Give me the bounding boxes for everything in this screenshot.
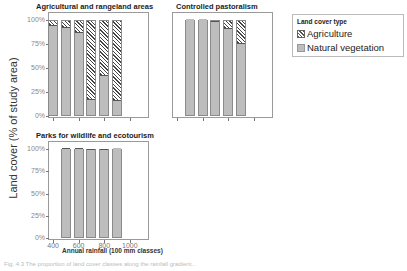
x-tick bbox=[104, 118, 105, 121]
x-axis-label: Annual rainfall (100 mm classes) bbox=[62, 247, 163, 254]
stacked-bar bbox=[112, 20, 122, 116]
stacked-bar bbox=[210, 20, 220, 116]
bar-segment-natural-vegetation bbox=[87, 99, 95, 115]
x-tick bbox=[79, 118, 80, 121]
y-tick-label: 0% bbox=[19, 112, 45, 119]
y-tick bbox=[46, 238, 49, 239]
bar-segment-natural-vegetation bbox=[100, 149, 108, 237]
stacked-bar bbox=[236, 20, 246, 116]
legend-title: Land cover type bbox=[297, 18, 347, 25]
y-tick-label: 25% bbox=[19, 212, 45, 219]
bar-segment-natural-vegetation bbox=[75, 32, 83, 115]
y-axis-label: Land cover (% of study area) bbox=[7, 53, 19, 203]
stacked-bar bbox=[112, 149, 122, 238]
y-tick-label: 100% bbox=[19, 16, 45, 23]
bar-segment-natural-vegetation bbox=[75, 148, 83, 237]
bar-segment-natural-vegetation bbox=[211, 21, 219, 115]
bar-segment-natural-vegetation bbox=[224, 28, 232, 115]
y-tick bbox=[46, 116, 49, 117]
stacked-bar bbox=[61, 149, 71, 238]
stacked-bar bbox=[48, 20, 58, 116]
stacked-bar bbox=[86, 20, 96, 116]
bar-segment-agriculture bbox=[87, 21, 95, 102]
bar-segment-natural-vegetation bbox=[49, 25, 57, 115]
figure-caption: Fig. 4.3 The proportion of land cover cl… bbox=[4, 261, 196, 267]
bar-segment-agriculture bbox=[113, 21, 121, 103]
hatch-swatch-icon bbox=[297, 30, 305, 38]
y-tick-label: 50% bbox=[19, 64, 45, 71]
x-tick bbox=[53, 118, 54, 121]
panel-title: Controlled pastoralism bbox=[176, 2, 258, 11]
stacked-bar bbox=[74, 149, 84, 238]
stacked-bar bbox=[61, 20, 71, 116]
bar-segment-natural-vegetation bbox=[113, 100, 121, 115]
y-tick bbox=[46, 149, 49, 150]
x-tick bbox=[130, 118, 131, 121]
stacked-bar bbox=[223, 20, 233, 116]
legend-item-agriculture: Agriculture bbox=[297, 28, 352, 39]
panel-title: Agricultural and rangeland areas bbox=[36, 2, 153, 11]
panel-title: Parks for wildlife and ecotourism bbox=[36, 131, 154, 140]
x-tick bbox=[203, 118, 204, 121]
legend: Land cover type Agriculture Natural vege… bbox=[292, 14, 404, 57]
x-tick bbox=[228, 118, 229, 121]
bar-segment-agriculture bbox=[100, 21, 108, 78]
stacked-bar bbox=[99, 149, 109, 238]
gray-swatch-icon bbox=[297, 44, 305, 52]
y-tick bbox=[46, 194, 49, 195]
stacked-bar bbox=[99, 20, 109, 116]
bar-segment-natural-vegetation bbox=[87, 149, 95, 237]
bar-segment-natural-vegetation bbox=[62, 148, 70, 237]
y-tick-label: 75% bbox=[19, 167, 45, 174]
bar-segment-natural-vegetation bbox=[237, 43, 245, 115]
stacked-bar bbox=[86, 149, 96, 238]
x-tick bbox=[254, 118, 255, 121]
y-tick-label: 50% bbox=[19, 190, 45, 197]
bar-segment-natural-vegetation bbox=[186, 19, 194, 115]
y-tick-label: 75% bbox=[19, 40, 45, 47]
y-tick-label: 100% bbox=[19, 145, 45, 152]
legend-item-natural-vegetation: Natural vegetation bbox=[297, 42, 384, 53]
stacked-bar bbox=[198, 20, 208, 116]
bar-segment-natural-vegetation bbox=[62, 27, 70, 115]
bar-segment-natural-vegetation bbox=[113, 148, 121, 237]
y-tick bbox=[46, 216, 49, 217]
stacked-bar bbox=[74, 20, 84, 116]
bar-segment-natural-vegetation bbox=[100, 75, 108, 115]
y-tick-label: 25% bbox=[19, 88, 45, 95]
stacked-bar bbox=[185, 20, 195, 116]
y-tick-label: 0% bbox=[19, 234, 45, 241]
y-tick bbox=[46, 171, 49, 172]
bar-segment-natural-vegetation bbox=[199, 19, 207, 115]
x-tick bbox=[177, 118, 178, 121]
